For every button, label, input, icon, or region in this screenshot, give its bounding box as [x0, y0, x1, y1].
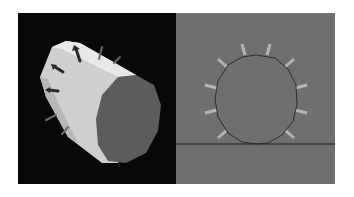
cross-section-illustration	[176, 13, 335, 184]
cylinder-render-panel	[18, 13, 176, 184]
cross-section-panel	[176, 13, 335, 184]
cylinder-illustration	[18, 13, 176, 184]
